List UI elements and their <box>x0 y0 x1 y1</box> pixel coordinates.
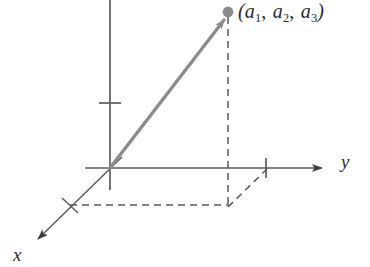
close-paren: ) <box>317 0 324 22</box>
component-a1: a <box>245 0 255 22</box>
coordinate-system-canvas <box>0 0 370 267</box>
separator-1: , <box>261 0 266 22</box>
separator-2: , <box>289 0 294 22</box>
component-a3: a <box>301 0 311 22</box>
component-a2: a <box>273 0 283 22</box>
point-coordinates-label: (a1, a2, a3) <box>238 1 324 24</box>
position-vector-arrow <box>110 20 224 168</box>
vector-endpoint-dot <box>223 7 234 18</box>
x-axis-label: x <box>13 245 21 264</box>
vector-3d-figure: y x (a1, a2, a3) <box>0 0 370 267</box>
open-paren: ( <box>238 0 245 22</box>
y-axis-label: y <box>341 152 349 171</box>
dashed-base-diagonal <box>228 169 267 207</box>
